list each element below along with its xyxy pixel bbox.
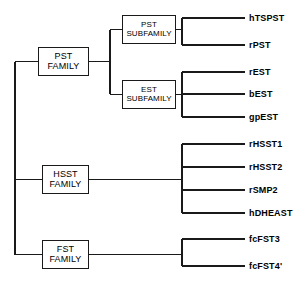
leaf-label-best: bEST — [249, 89, 273, 99]
leaf-label-rpst: rPST — [249, 40, 271, 50]
node-box-pst-family: PST FAMILY — [38, 47, 89, 76]
node-box-fst-family: FST FAMILY — [42, 240, 89, 269]
leaf-label-rest: rEST — [249, 67, 271, 77]
leaf-label-fcfst4: fcFST4' — [249, 261, 282, 271]
leaf-label-gpest: gpEST — [249, 112, 278, 122]
node-box-hsst-family: HSST FAMILY — [42, 165, 89, 194]
node-label-line2: FAMILY — [48, 62, 80, 71]
node-box-est-subfamily: EST SUBFAMILY — [122, 80, 176, 109]
leaf-label-fcfst3: fcFST3 — [249, 234, 280, 244]
node-label-line2: SUBFAMILY — [126, 95, 171, 103]
leaf-label-hdheast: hDHEAST — [249, 208, 293, 218]
leaf-label-rhsst2: rHSST2 — [249, 162, 282, 172]
node-box-pst-subfamily: PST SUBFAMILY — [122, 15, 176, 44]
leaf-label-rsmp2: rSMP2 — [249, 185, 278, 195]
node-label-line2: FAMILY — [50, 180, 82, 189]
node-label-line2: FAMILY — [50, 255, 82, 264]
phylogenetic-tree-diagram: PST FAMILY PST SUBFAMILY EST SUBFAMILY H… — [0, 0, 302, 285]
leaf-label-htspst: hTSPST — [249, 13, 284, 23]
leaf-label-rhsst1: rHSST1 — [249, 139, 282, 149]
node-label-line2: SUBFAMILY — [126, 30, 171, 38]
